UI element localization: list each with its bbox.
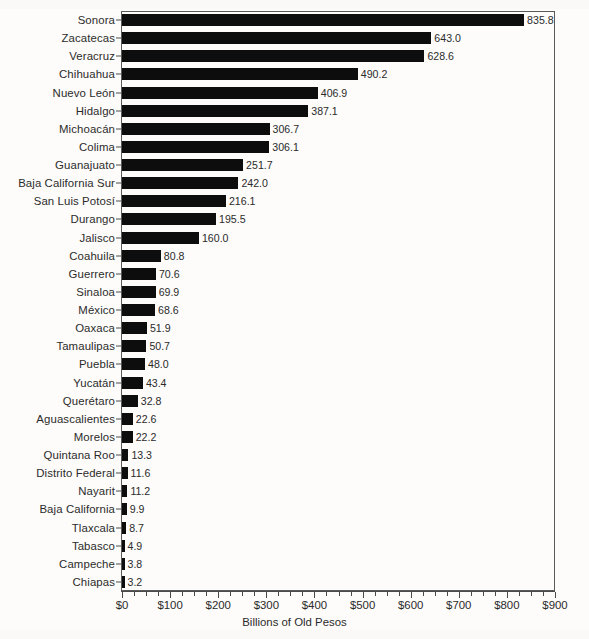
bar-row: San Luis Potosí216.1 xyxy=(0,192,589,210)
bar-row: Coahuila80.8 xyxy=(0,247,589,265)
bar xyxy=(122,195,226,207)
bar-value-label: 22.2 xyxy=(136,431,157,443)
bar xyxy=(122,576,125,588)
bar xyxy=(122,358,145,370)
y-axis-tick xyxy=(116,56,121,57)
x-axis-minor-tick xyxy=(423,592,424,596)
category-label: Guanajuato xyxy=(55,159,115,171)
category-label: Sinaloa xyxy=(76,286,115,298)
category-label: Puebla xyxy=(79,358,115,370)
bar xyxy=(122,87,318,99)
category-label: Durango xyxy=(71,213,115,225)
category-label: Guerrero xyxy=(69,268,115,280)
category-label: Michoacán xyxy=(59,123,115,135)
x-axis-major-tick xyxy=(122,592,123,598)
y-axis-tick xyxy=(116,110,121,111)
bar xyxy=(122,286,156,298)
x-axis-tick-label: $500 xyxy=(350,599,375,611)
y-axis-tick xyxy=(116,201,121,202)
category-label: Colima xyxy=(79,141,115,153)
category-label: Coahuila xyxy=(69,250,115,262)
bar-value-label: 4.9 xyxy=(128,540,143,552)
bar-value-label: 251.7 xyxy=(246,159,273,171)
bar xyxy=(122,540,125,552)
bar xyxy=(122,232,199,244)
category-label: Aguascalientes xyxy=(36,413,115,425)
y-axis-tick xyxy=(116,545,121,546)
x-axis-minor-tick xyxy=(206,592,207,596)
y-axis-tick xyxy=(116,563,121,564)
category-label: Querétaro xyxy=(63,395,115,407)
bar-row: Nuevo León406.9 xyxy=(0,84,589,102)
bar-row: Morelos22.2 xyxy=(0,428,589,446)
bar-value-label: 32.8 xyxy=(141,395,162,407)
category-label: San Luis Potosí xyxy=(34,195,115,207)
bar-row: Yucatán43.4 xyxy=(0,374,589,392)
bar-row: Oaxaca51.9 xyxy=(0,319,589,337)
x-axis-minor-tick xyxy=(339,592,340,596)
bar-value-label: 51.9 xyxy=(150,322,171,334)
bar-row: Quintana Roo13.3 xyxy=(0,446,589,464)
x-axis-minor-tick xyxy=(182,592,183,596)
bar-value-label: 50.7 xyxy=(149,340,170,352)
bar-row: Baja California Sur242.0 xyxy=(0,174,589,192)
y-axis-tick xyxy=(116,382,121,383)
category-label: Quintana Roo xyxy=(44,449,116,461)
bar-row: Baja California9.9 xyxy=(0,500,589,518)
bar-value-label: 69.9 xyxy=(159,286,180,298)
x-axis-minor-tick xyxy=(495,592,496,596)
bar-row: Tabasco4.9 xyxy=(0,537,589,555)
y-axis-tick xyxy=(116,237,121,238)
x-axis-minor-tick xyxy=(134,592,135,596)
x-axis-major-tick xyxy=(170,592,171,598)
x-axis-minor-tick xyxy=(230,592,231,596)
bar-value-label: 48.0 xyxy=(148,358,169,370)
x-axis-minor-tick xyxy=(302,592,303,596)
x-axis-minor-tick xyxy=(351,592,352,596)
category-label: Chihuahua xyxy=(59,68,115,80)
x-axis-minor-tick xyxy=(375,592,376,596)
bar-row: Campeche3.8 xyxy=(0,555,589,573)
bar xyxy=(122,213,216,225)
bar xyxy=(122,68,358,80)
bar xyxy=(122,467,128,479)
bar-value-label: 387.1 xyxy=(311,105,338,117)
bar-row: Colima306.1 xyxy=(0,138,589,156)
y-axis-tick xyxy=(116,38,121,39)
bar-value-label: 835.8 xyxy=(527,14,554,26)
y-axis-tick xyxy=(116,473,121,474)
bar xyxy=(122,141,269,153)
bar xyxy=(122,268,156,280)
y-axis-tick xyxy=(116,436,121,437)
y-axis-tick xyxy=(116,255,121,256)
bar-value-label: 643.0 xyxy=(434,32,461,44)
category-label: Sonora xyxy=(78,14,115,26)
bar xyxy=(122,558,125,570)
bar xyxy=(122,522,126,534)
x-axis-minor-tick xyxy=(531,592,532,596)
bar xyxy=(122,123,270,135)
y-axis-tick xyxy=(116,418,121,419)
category-label: Veracruz xyxy=(69,50,115,62)
bar-row: Guerrero70.6 xyxy=(0,265,589,283)
bar-value-label: 8.7 xyxy=(129,522,144,534)
bar-value-label: 11.2 xyxy=(130,485,150,497)
bar-value-label: 68.6 xyxy=(158,304,179,316)
category-label: Yucatán xyxy=(73,377,115,389)
x-axis-tick-label: $200 xyxy=(206,599,231,611)
bar-row: Querétaro32.8 xyxy=(0,392,589,410)
y-axis-tick xyxy=(116,491,121,492)
category-label: Oaxaca xyxy=(75,322,115,334)
bar-chart: Sonora835.8Zacatecas643.0Veracruz628.6Ch… xyxy=(0,0,589,639)
bar xyxy=(122,177,238,189)
y-axis-tick xyxy=(116,509,121,510)
category-label: Campeche xyxy=(59,558,115,570)
bar-value-label: 306.1 xyxy=(272,141,299,153)
category-label: Distrito Federal xyxy=(36,467,115,479)
y-axis-tick xyxy=(116,455,121,456)
x-axis-minor-tick xyxy=(519,592,520,596)
x-axis-minor-tick xyxy=(447,592,448,596)
y-axis-tick xyxy=(116,128,121,129)
bar-value-label: 406.9 xyxy=(321,87,348,99)
bar-row: Aguascalientes22.6 xyxy=(0,410,589,428)
